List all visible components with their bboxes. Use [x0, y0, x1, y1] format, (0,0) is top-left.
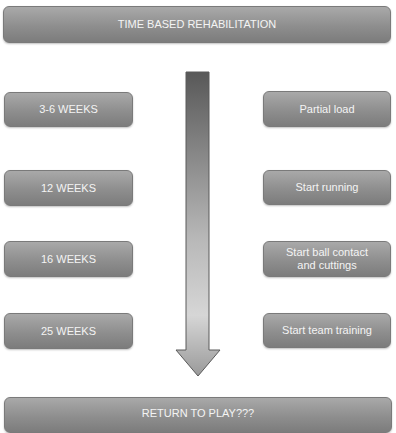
- activity-label: Start ball contact and cuttings: [282, 246, 372, 272]
- activity-box-start-running: Start running: [263, 170, 391, 205]
- time-label: 12 WEEKS: [41, 182, 96, 195]
- time-label: 16 WEEKS: [41, 253, 96, 266]
- time-box-12-weeks: 12 WEEKS: [4, 170, 133, 206]
- time-box-25-weeks: 25 WEEKS: [4, 313, 133, 349]
- time-label: 3-6 WEEKS: [39, 103, 98, 116]
- activity-box-partial-load: Partial load: [263, 91, 391, 127]
- time-box-3-6-weeks: 3-6 WEEKS: [4, 92, 133, 127]
- activity-label: Start team training: [282, 324, 372, 337]
- activity-box-start-ball-contact: Start ball contact and cuttings: [263, 241, 391, 277]
- footer-box: RETURN TO PLAY???: [4, 397, 392, 433]
- time-box-16-weeks: 16 WEEKS: [4, 241, 133, 277]
- footer-text: RETURN TO PLAY???: [142, 407, 255, 420]
- activity-label: Start running: [296, 181, 359, 194]
- activity-label: Partial load: [299, 103, 354, 116]
- activity-box-start-team-training: Start team training: [263, 313, 391, 348]
- time-label: 25 WEEKS: [41, 325, 96, 338]
